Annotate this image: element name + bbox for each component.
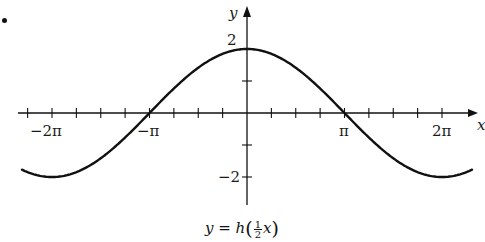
x-tick-label: −π <box>137 124 159 139</box>
caption-close-paren: ) <box>272 217 279 239</box>
caption-func: h <box>236 219 246 237</box>
y-tick-label: −2 <box>218 170 240 185</box>
x-tick-label: 2π <box>432 124 451 139</box>
y-tick-label: 2 <box>227 33 237 48</box>
x-tick-label: π <box>339 124 349 139</box>
x-axis-label: x <box>477 118 485 133</box>
fraction-denominator: 2 <box>254 230 262 239</box>
caption-var: x <box>263 219 271 237</box>
x-tick-label: −2π <box>30 124 62 139</box>
y-axis-arrow-icon <box>243 6 251 17</box>
caption-fraction: 12 <box>254 220 262 239</box>
function-caption: y = h(12x) <box>205 217 279 239</box>
fraction-numerator: 1 <box>254 220 262 230</box>
caption-open-paren: ( <box>245 217 252 239</box>
y-axis-label: y <box>229 6 237 21</box>
caption-equals: = <box>213 219 235 237</box>
